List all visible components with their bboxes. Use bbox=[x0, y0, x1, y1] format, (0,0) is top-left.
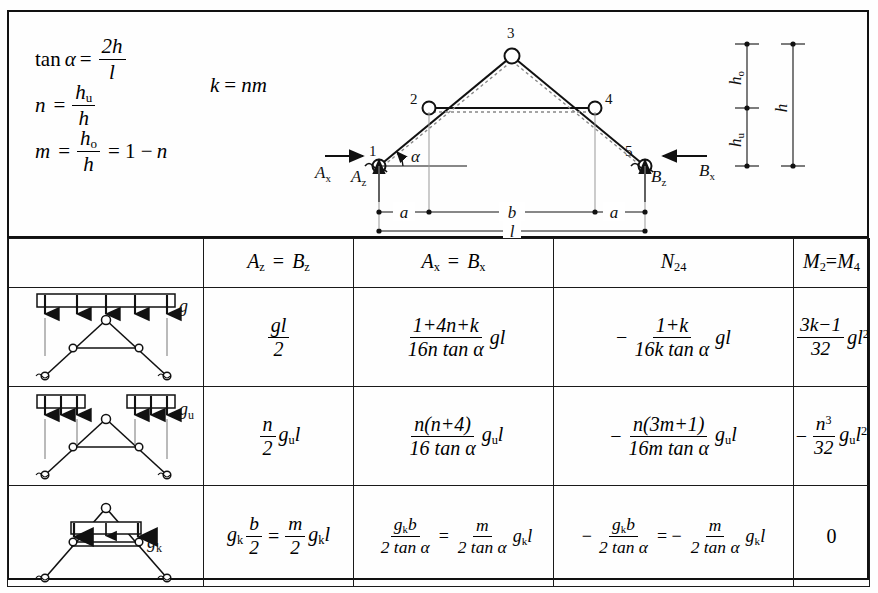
cell-m2-m4-row-g: 3k−1 32 gl2 bbox=[794, 288, 870, 387]
cell-az-bz-row-gk: gk b 2 = m 2 gkl bbox=[204, 486, 354, 587]
equals: = − bbox=[657, 526, 682, 547]
m-symbol: m bbox=[35, 139, 50, 164]
equals: = bbox=[439, 526, 449, 547]
table-header-row: Az = Bz Ax = Bx N24 M2=M4 bbox=[8, 239, 870, 288]
mini-truss-members bbox=[45, 320, 167, 376]
node-label-1: 1 bbox=[369, 143, 377, 159]
fraction-numerator: n3 bbox=[813, 414, 835, 436]
cell-n24-row-g: − 1+k 16k tan α gl bbox=[554, 288, 794, 387]
formula-n-definition: n = hu h bbox=[35, 82, 325, 128]
k-symbol: k bbox=[210, 73, 219, 98]
angle-alpha-marker: α bbox=[379, 147, 467, 166]
fraction: 1+k 16k tan α bbox=[631, 315, 712, 360]
suffix: gul bbox=[482, 423, 504, 448]
k-expression: nm bbox=[241, 73, 267, 98]
fraction: gkb 2 tan α bbox=[596, 515, 651, 556]
suffix: gl2 bbox=[847, 326, 869, 349]
equals: = bbox=[268, 525, 279, 548]
mini-supports bbox=[36, 374, 170, 378]
fraction: n3 32 bbox=[811, 414, 836, 458]
fraction-numerator: 2h bbox=[99, 35, 126, 59]
suffix: gkl bbox=[308, 523, 330, 548]
equals-sign-k: = bbox=[224, 73, 236, 98]
load-extension-lines bbox=[45, 419, 167, 459]
load-label-gk: gk bbox=[147, 532, 162, 555]
alpha-symbol: α bbox=[65, 47, 76, 72]
cell-ax-bx-row-gu: n(n+4) 16 tan α gul bbox=[354, 387, 554, 486]
suffix: gul bbox=[715, 423, 737, 448]
cell-n24-row-gu: − n(3m+1) 16m tan α gul bbox=[554, 387, 794, 486]
cell-n24-row-gk: − gkb 2 tan α = − m 2 tan α gkl bbox=[554, 486, 794, 587]
cell-az-bz-row-g: gl 2 bbox=[204, 288, 354, 387]
m-tail-operator: = 1 − bbox=[108, 139, 153, 164]
dimension-label-ho: ho bbox=[726, 71, 746, 86]
equals-sign: = bbox=[80, 47, 92, 72]
sign: − bbox=[610, 425, 621, 448]
n-symbol: n bbox=[35, 93, 46, 118]
node-label-2: 2 bbox=[410, 91, 418, 107]
load-diagram-gu: gu bbox=[8, 387, 204, 486]
cell-ax-bx-row-g: 1+4n+k 16n tan α gl bbox=[354, 288, 554, 387]
load-diagram-g: g bbox=[8, 288, 204, 387]
cell-m2-m4-row-gu: − n3 32 gul2 bbox=[794, 387, 870, 486]
fraction: 3k−1 32 bbox=[797, 315, 844, 359]
vertical-dimension-lines bbox=[735, 44, 805, 166]
header-m2-m4: M2=M4 bbox=[794, 239, 870, 288]
suffix: gl bbox=[490, 326, 506, 349]
node-3 bbox=[505, 49, 520, 64]
uniform-load-band-g bbox=[37, 294, 175, 314]
mini-supports bbox=[36, 473, 170, 477]
formula-k-definition: k = nm bbox=[210, 62, 267, 108]
header-n24: N24 bbox=[554, 239, 794, 288]
suffix: gl bbox=[715, 326, 731, 349]
reaction-label-az: Az bbox=[350, 167, 366, 188]
fraction: 1+4n+k 16n tan α bbox=[405, 315, 487, 360]
header-load-case bbox=[8, 239, 204, 288]
table-row: gu n 2 gul n(n+4) bbox=[8, 387, 870, 486]
fraction: n(n+4) 16 tan α bbox=[407, 414, 479, 459]
fraction: m 2 tan α bbox=[688, 516, 743, 556]
dimension-label-a-left: a bbox=[400, 203, 409, 222]
fraction-ho-over-h: ho h bbox=[77, 127, 100, 176]
header-ax-bx: Ax = Bx bbox=[354, 239, 554, 288]
vertical-dimension-labels: ho hu h bbox=[726, 71, 791, 148]
zero-value: 0 bbox=[827, 525, 837, 548]
table-row: g gl 2 1+4n+k 16n tan α bbox=[8, 288, 870, 387]
suffix: gkl bbox=[513, 526, 533, 547]
equals-sign-n: = bbox=[54, 93, 66, 118]
coefficients-table: Az = Bz Ax = Bx N24 M2=M4 bbox=[7, 238, 870, 587]
formula-tan-alpha: tan α = 2h l bbox=[35, 36, 325, 82]
header-band: tan α = 2h l n = hu h m = h bbox=[7, 10, 869, 238]
sign: − bbox=[796, 425, 807, 448]
cell-m2-m4-row-gk: 0 bbox=[794, 486, 870, 587]
fraction-numerator: hu bbox=[72, 81, 95, 107]
mini-truss-members bbox=[45, 419, 167, 475]
load-label-gu: gu bbox=[179, 399, 194, 422]
node-label-4: 4 bbox=[605, 91, 613, 107]
load-diagram-gk: gk bbox=[8, 486, 204, 587]
fraction-denominator: l bbox=[106, 60, 118, 83]
tan-keyword: tan bbox=[35, 47, 61, 72]
suffix: gkl bbox=[746, 526, 766, 547]
suffix: gul bbox=[279, 423, 301, 448]
load-label-g: g bbox=[179, 296, 188, 316]
cell-ax-bx-row-gk: gkb 2 tan α = m 2 tan α gkl bbox=[354, 486, 554, 587]
reference-table-page: tan α = 2h l n = hu h m = h bbox=[0, 0, 878, 593]
partial-load-band-right bbox=[127, 395, 175, 415]
fraction: b 2 bbox=[246, 514, 262, 558]
definitions-block: tan α = 2h l n = hu h m = h bbox=[35, 36, 325, 174]
dimension-label-l-group: l bbox=[503, 221, 521, 238]
reaction-label-bx: Bx bbox=[699, 161, 715, 182]
formula-m-definition: m = ho h = 1 − n bbox=[35, 128, 325, 174]
equals-sign-m: = bbox=[58, 139, 70, 164]
fraction: m 2 tan α bbox=[455, 516, 510, 556]
dimension-label-b: b bbox=[508, 203, 517, 222]
suffix: gul2 bbox=[839, 423, 867, 448]
fraction: n 2 bbox=[260, 414, 276, 459]
fraction-hu-over-h: hu h bbox=[72, 81, 95, 130]
support-symbols bbox=[365, 164, 653, 173]
prefix: gk bbox=[227, 523, 243, 548]
header-az-bz: Az = Bz bbox=[204, 239, 354, 288]
results-table: Az = Bz Ax = Bx N24 M2=M4 bbox=[7, 238, 869, 580]
axis-hint-lines bbox=[383, 61, 641, 166]
